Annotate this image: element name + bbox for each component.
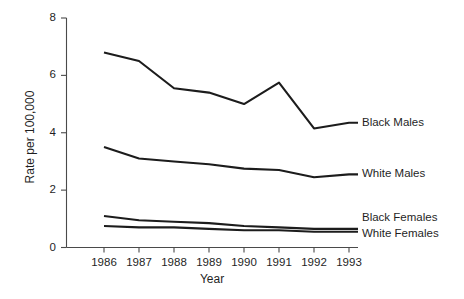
series-label: White Females — [362, 228, 439, 240]
x-tick-marks — [104, 248, 349, 253]
series-label: Black Males — [362, 117, 424, 129]
series-lines — [104, 52, 358, 231]
series-line — [104, 52, 358, 128]
y-tick-label: 0 — [20, 242, 56, 254]
series-label: White Males — [362, 168, 425, 180]
x-tick-label: 1993 — [327, 257, 371, 269]
y-tick-marks — [61, 18, 67, 248]
x-axis-title: Year — [66, 272, 358, 286]
series-line — [104, 147, 358, 177]
y-axis-title: Rate per 100,000 — [23, 71, 37, 203]
y-tick-label: 8 — [20, 12, 56, 24]
series-label: Black Females — [362, 212, 437, 224]
plot-area — [0, 0, 464, 299]
line-chart: 02468 19861987198819891990199119921993 B… — [0, 0, 464, 299]
